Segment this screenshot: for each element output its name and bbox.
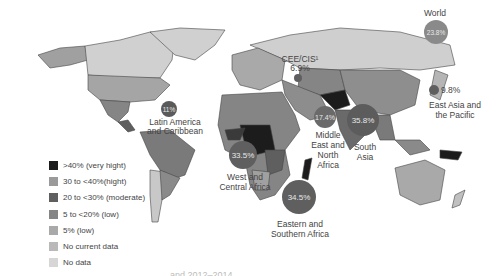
legend-swatch xyxy=(49,258,58,267)
legend-item: 5% (low) xyxy=(49,222,145,238)
legend-swatch xyxy=(49,193,58,202)
legend-label: No current data xyxy=(63,242,118,251)
sa-label-line2: Asia xyxy=(350,153,380,163)
map-caption: and 2012–2014 xyxy=(170,270,233,276)
legend-swatch xyxy=(49,161,58,170)
wca-bubble: 33.5% xyxy=(229,141,257,169)
oceania xyxy=(395,140,465,208)
legend-swatch xyxy=(49,242,58,251)
legend-label: 5% (low) xyxy=(63,226,94,235)
esa-bubble: 34.5% xyxy=(282,180,316,214)
mena-label-line4: Africa xyxy=(313,161,343,171)
legend-item: 20 to <30% (moderate) xyxy=(49,190,145,206)
world-label: World xyxy=(420,9,450,19)
legend-swatch xyxy=(49,177,58,186)
legend-item: No current data xyxy=(49,238,145,254)
legend-label: >40% (very hight) xyxy=(63,161,126,170)
wca-label-line2: Central Africa xyxy=(215,183,275,193)
legend-label: 20 to <30% (moderate) xyxy=(63,193,145,202)
map-legend: >40% (very hight) 30 to <40%(hight) 20 t… xyxy=(49,157,145,271)
legend-label: No data xyxy=(63,258,91,267)
cee-bubble xyxy=(294,74,302,82)
legend-item: 5 to <20% (low) xyxy=(49,206,145,222)
lac-bubble: 11% xyxy=(161,101,177,117)
legend-swatch xyxy=(49,210,58,219)
legend-swatch xyxy=(49,226,58,235)
legend-item: No data xyxy=(49,255,145,271)
legend-label: 30 to <40%(hight) xyxy=(63,177,126,186)
south-america xyxy=(140,130,195,222)
lac-label-line2: and Caribbean xyxy=(145,127,205,137)
legend-label: 5 to <20% (low) xyxy=(63,210,119,219)
esa-label-line2: Southern Africa xyxy=(266,230,334,240)
legend-item: >40% (very hight) xyxy=(49,157,145,173)
world-bubble: 23.8% xyxy=(424,20,448,44)
eap-label-line2: the Pacific xyxy=(420,111,490,121)
mena-bubble: 17.4% xyxy=(314,106,336,128)
legend-item: 30 to <40%(hight) xyxy=(49,173,145,189)
eap-bubble xyxy=(429,85,439,95)
cee-value: 6.9% xyxy=(275,64,325,74)
eap-value: 9.8% xyxy=(441,86,460,96)
sa-bubble: 35.8% xyxy=(347,104,379,136)
